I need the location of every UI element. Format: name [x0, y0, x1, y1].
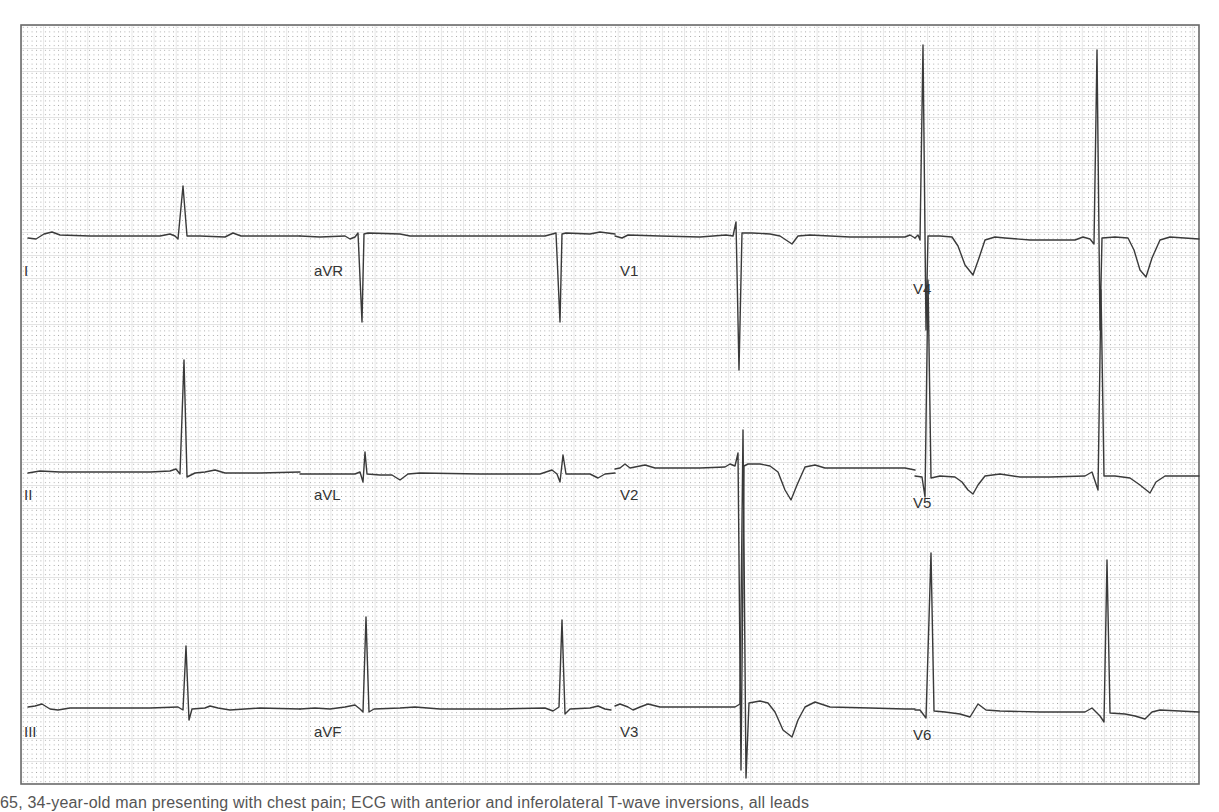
figure-caption: 65, 34-year-old man presenting with ches…	[0, 794, 809, 812]
lead-label-avl: aVL	[314, 486, 341, 503]
lead-label-v2: V2	[620, 486, 638, 503]
lead-label-v6: V6	[913, 726, 931, 743]
lead-label-iii: III	[24, 723, 37, 740]
lead-label-ii: II	[24, 486, 32, 503]
lead-label-v1: V1	[620, 262, 638, 279]
lead-label-v4: V4	[913, 280, 931, 297]
lead-label-v5: V5	[913, 494, 931, 511]
ecg-grid	[21, 25, 1199, 784]
lead-label-v3: V3	[620, 723, 638, 740]
lead-label-i: I	[24, 262, 28, 279]
lead-label-avr: aVR	[314, 262, 343, 279]
grid-major-lines	[21, 25, 1199, 784]
lead-label-avf: aVF	[314, 723, 342, 740]
